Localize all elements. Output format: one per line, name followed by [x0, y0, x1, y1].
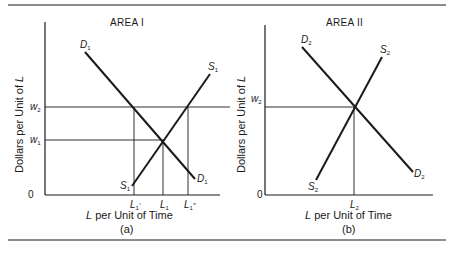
- panel-a-L1dprime-label: L1″: [184, 200, 195, 213]
- panel-b-demand-label-bottom: D2: [414, 169, 425, 182]
- y-label-text: Dollars per Unit of: [13, 82, 25, 173]
- panel-b-demand-label-top: D2: [301, 35, 312, 48]
- panel-a-supply-label-top: S1: [208, 62, 218, 75]
- panel-b-supply-label-bottom: S2: [308, 182, 318, 195]
- panel-a-y-axis-label: Dollars per Unit of L: [13, 76, 25, 173]
- panel-b-supply-curve: [316, 57, 382, 180]
- panel-a-supply-label-bottom: S1: [120, 181, 130, 194]
- panel-a-title: AREA I: [110, 17, 144, 28]
- panel-a-demand-label-bottom: D1: [197, 174, 208, 187]
- panel-a-caption: (a): [120, 223, 133, 235]
- panel-a-demand-label-top: D1: [80, 40, 91, 53]
- panel-b-y-axis-label: Dollars per Unit of L: [235, 76, 247, 173]
- y-label-var: L: [13, 76, 25, 82]
- panel-a-w1-label: w1: [30, 135, 41, 148]
- panel-a-w2-label: w2: [30, 102, 41, 115]
- panel-b-supply-label-top: S2: [380, 45, 390, 58]
- panel-b-x-axis-label: L per Unit of Time: [305, 209, 392, 221]
- labor-market-diagram: AREA I Dollars per Unit of L 0 w2 w1 L1′…: [0, 0, 456, 255]
- panel-a-supply-curve: [132, 74, 210, 186]
- panel-b-caption: (b): [342, 223, 355, 235]
- panel-b-w2-label: w2: [251, 94, 262, 107]
- panel-b-title: AREA II: [326, 17, 363, 28]
- panel-a-x-axis-label: L per Unit of Time: [86, 209, 173, 221]
- panel-b-demand-curve: [302, 47, 413, 172]
- panel-b-origin: 0: [257, 190, 263, 200]
- panel-a-demand-curve: [85, 52, 195, 179]
- panel-a-origin: 0: [28, 190, 34, 200]
